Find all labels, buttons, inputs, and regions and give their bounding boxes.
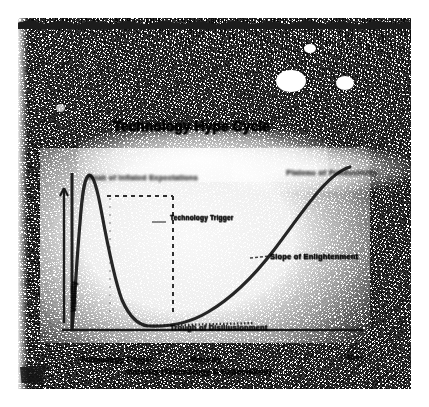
- annotation-slope: Slope of Enlightenment: [270, 252, 358, 261]
- annotation-plateau: Plateau of Productivity: [286, 168, 377, 177]
- chart-title: Technology Hype Cycle: [113, 118, 270, 134]
- hype-curve: [72, 167, 350, 328]
- x-tick-mid: Maturity: [190, 355, 221, 364]
- annotation-peak: Peak of Inflated Expectations: [88, 173, 198, 182]
- screenshot-root: Technology Hype Cycle Peak of Inflated E…: [0, 0, 429, 407]
- y-axis: [60, 188, 68, 323]
- annotation-trough: Trough of Disillusionment: [170, 323, 268, 332]
- x-tick-right: Time: [346, 353, 364, 362]
- y-axis-label: Visibility: [70, 281, 77, 312]
- annotation-trigger: Technology Trigger: [170, 214, 234, 222]
- x-axis-label: Maturity (Technology & Expectation): [126, 367, 272, 376]
- peak-dashed-box: [107, 196, 173, 312]
- scanned-figure: Technology Hype Cycle Peak of Inflated E…: [18, 18, 411, 389]
- x-tick-left: Technology Trigger: [80, 355, 153, 364]
- chart-canvas: [18, 18, 411, 389]
